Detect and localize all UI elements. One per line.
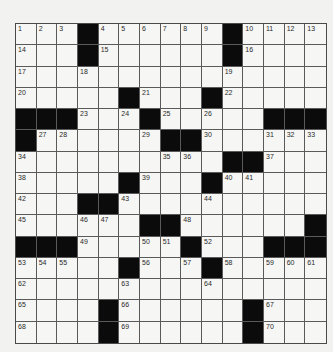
grid-cell[interactable]: 25 — [161, 109, 182, 130]
grid-cell[interactable] — [285, 67, 306, 88]
grid-cell[interactable] — [140, 279, 161, 300]
grid-cell[interactable] — [140, 194, 161, 215]
grid-cell[interactable] — [99, 279, 120, 300]
grid-cell[interactable]: 2 — [37, 24, 58, 45]
grid-cell[interactable] — [181, 67, 202, 88]
grid-cell[interactable] — [161, 279, 182, 300]
grid-cell[interactable] — [161, 173, 182, 194]
grid-cell[interactable]: 66 — [119, 300, 140, 321]
grid-cell[interactable] — [264, 173, 285, 194]
grid-cell[interactable] — [285, 173, 306, 194]
grid-cell[interactable] — [78, 152, 99, 173]
grid-cell[interactable] — [202, 300, 223, 321]
grid-cell[interactable] — [78, 173, 99, 194]
grid-cell[interactable] — [57, 45, 78, 66]
grid-cell[interactable] — [161, 88, 182, 109]
grid-cell[interactable] — [181, 300, 202, 321]
grid-cell[interactable]: 49 — [78, 237, 99, 258]
grid-cell[interactable]: 69 — [119, 322, 140, 343]
grid-cell[interactable] — [243, 279, 264, 300]
grid-cell[interactable]: 4 — [99, 24, 120, 45]
grid-cell[interactable] — [99, 88, 120, 109]
grid-cell[interactable]: 5 — [119, 24, 140, 45]
grid-cell[interactable]: 9 — [202, 24, 223, 45]
grid-cell[interactable]: 18 — [78, 67, 99, 88]
grid-cell[interactable]: 16 — [243, 45, 264, 66]
grid-cell[interactable] — [181, 45, 202, 66]
grid-cell[interactable] — [57, 194, 78, 215]
grid-cell[interactable]: 64 — [202, 279, 223, 300]
grid-cell[interactable] — [57, 152, 78, 173]
grid-cell[interactable] — [202, 322, 223, 343]
grid-cell[interactable]: 34 — [16, 152, 37, 173]
grid-cell[interactable]: 55 — [57, 258, 78, 279]
grid-cell[interactable] — [285, 300, 306, 321]
grid-cell[interactable] — [37, 152, 58, 173]
grid-cell[interactable] — [37, 45, 58, 66]
grid-cell[interactable] — [99, 109, 120, 130]
grid-cell[interactable] — [161, 300, 182, 321]
grid-cell[interactable] — [37, 194, 58, 215]
grid-cell[interactable] — [243, 130, 264, 151]
grid-cell[interactable]: 23 — [78, 109, 99, 130]
grid-cell[interactable]: 61 — [305, 258, 326, 279]
grid-cell[interactable] — [223, 130, 244, 151]
grid-cell[interactable]: 33 — [305, 130, 326, 151]
grid-cell[interactable]: 14 — [16, 45, 37, 66]
grid-cell[interactable] — [37, 88, 58, 109]
grid-cell[interactable]: 36 — [181, 152, 202, 173]
grid-cell[interactable] — [161, 322, 182, 343]
grid-cell[interactable] — [305, 300, 326, 321]
grid-cell[interactable] — [57, 279, 78, 300]
grid-cell[interactable] — [181, 279, 202, 300]
grid-cell[interactable] — [78, 279, 99, 300]
grid-cell[interactable]: 6 — [140, 24, 161, 45]
grid-cell[interactable]: 50 — [140, 237, 161, 258]
grid-cell[interactable]: 56 — [140, 258, 161, 279]
grid-cell[interactable]: 60 — [285, 258, 306, 279]
grid-cell[interactable]: 22 — [223, 88, 244, 109]
grid-cell[interactable] — [119, 215, 140, 236]
grid-cell[interactable] — [305, 152, 326, 173]
grid-cell[interactable] — [202, 67, 223, 88]
grid-cell[interactable] — [243, 88, 264, 109]
grid-cell[interactable]: 29 — [140, 130, 161, 151]
grid-cell[interactable]: 37 — [264, 152, 285, 173]
grid-cell[interactable] — [305, 67, 326, 88]
grid-cell[interactable] — [285, 279, 306, 300]
grid-cell[interactable]: 17 — [16, 67, 37, 88]
grid-cell[interactable]: 10 — [243, 24, 264, 45]
grid-cell[interactable] — [305, 279, 326, 300]
grid-cell[interactable] — [181, 173, 202, 194]
grid-cell[interactable] — [243, 109, 264, 130]
grid-cell[interactable]: 57 — [181, 258, 202, 279]
grid-cell[interactable]: 59 — [264, 258, 285, 279]
grid-cell[interactable]: 45 — [16, 215, 37, 236]
grid-cell[interactable] — [140, 300, 161, 321]
grid-cell[interactable]: 31 — [264, 130, 285, 151]
grid-cell[interactable] — [305, 194, 326, 215]
grid-cell[interactable] — [223, 300, 244, 321]
grid-cell[interactable] — [99, 173, 120, 194]
grid-cell[interactable] — [243, 237, 264, 258]
grid-cell[interactable]: 62 — [16, 279, 37, 300]
grid-cell[interactable] — [57, 173, 78, 194]
grid-cell[interactable] — [78, 130, 99, 151]
grid-cell[interactable]: 35 — [161, 152, 182, 173]
grid-cell[interactable] — [37, 67, 58, 88]
grid-cell[interactable] — [78, 88, 99, 109]
grid-cell[interactable] — [161, 258, 182, 279]
grid-cell[interactable] — [223, 109, 244, 130]
grid-cell[interactable] — [161, 194, 182, 215]
grid-cell[interactable] — [57, 88, 78, 109]
grid-cell[interactable] — [305, 173, 326, 194]
grid-cell[interactable] — [140, 45, 161, 66]
grid-cell[interactable]: 26 — [202, 109, 223, 130]
grid-cell[interactable]: 48 — [181, 215, 202, 236]
grid-cell[interactable] — [305, 88, 326, 109]
grid-cell[interactable] — [243, 258, 264, 279]
grid-cell[interactable]: 47 — [99, 215, 120, 236]
grid-cell[interactable]: 15 — [99, 45, 120, 66]
grid-cell[interactable]: 39 — [140, 173, 161, 194]
grid-cell[interactable] — [99, 130, 120, 151]
